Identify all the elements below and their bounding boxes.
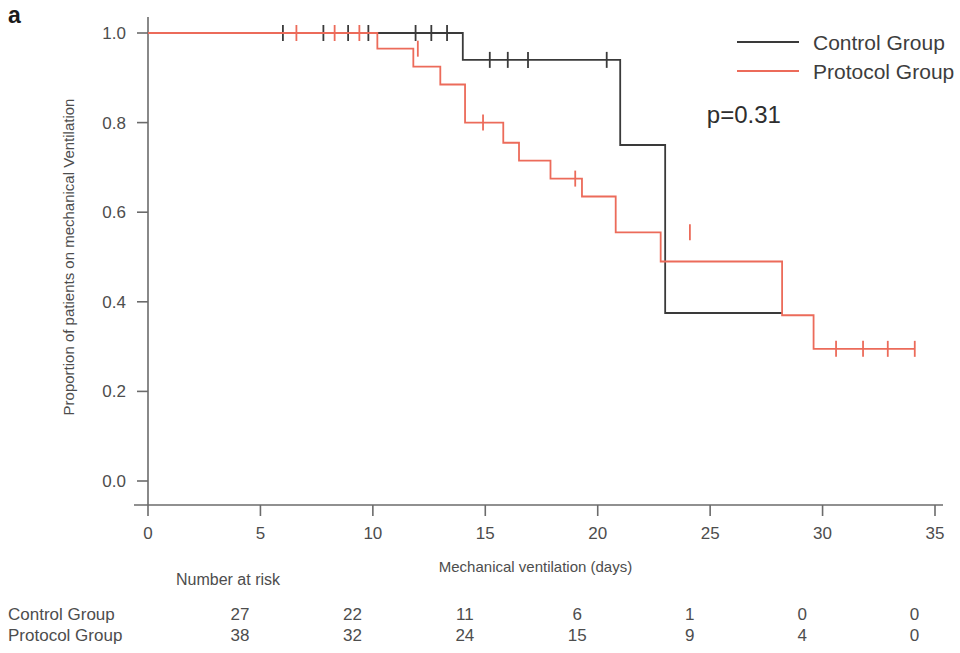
series-control	[148, 25, 782, 313]
risk-count: 24	[455, 626, 474, 645]
y-tick-label: 0.4	[102, 293, 126, 312]
x-tick-label: 20	[588, 524, 607, 543]
legend-entry: Protocol Group	[737, 60, 954, 83]
x-tick-label: 5	[256, 524, 265, 543]
x-tick-label: 35	[926, 524, 945, 543]
y-axis-title: Proportion of patients on mechanical Ven…	[60, 99, 77, 416]
risk-row-label: Control Group	[8, 605, 115, 624]
legend-label: Protocol Group	[813, 60, 954, 83]
risk-table-row: Control Group2722116100	[8, 605, 919, 624]
risk-row-label: Protocol Group	[8, 626, 122, 645]
risk-count: 0	[797, 605, 806, 624]
risk-count: 9	[685, 626, 694, 645]
risk-count: 38	[231, 626, 250, 645]
legend-label: Control Group	[813, 31, 945, 54]
y-tick-label: 0.2	[102, 382, 126, 401]
x-axis-title: Mechanical ventilation (days)	[439, 558, 632, 575]
y-tick-label: 0.6	[102, 203, 126, 222]
risk-count: 15	[568, 626, 587, 645]
risk-count: 0	[910, 626, 919, 645]
x-tick-label: 30	[813, 524, 832, 543]
legend-layer: Control GroupProtocol Group	[737, 31, 954, 83]
survival-step-line	[148, 33, 915, 349]
survival-step-line	[148, 33, 782, 313]
risk-table-title: Number at risk	[176, 571, 281, 588]
risk-count: 22	[343, 605, 362, 624]
survival-plot: 0.00.20.40.60.81.005101520253035Mechanic…	[0, 0, 960, 653]
curves-layer	[148, 25, 915, 357]
x-tick-label: 10	[363, 524, 382, 543]
axes-layer: 0.00.20.40.60.81.005101520253035Mechanic…	[60, 17, 944, 575]
x-tick-label: 15	[476, 524, 495, 543]
kaplan-meier-figure: a 0.00.20.40.60.81.005101520253035Mechan…	[0, 0, 960, 653]
risk-table-row: Protocol Group38322415940	[8, 626, 919, 645]
risk-count: 0	[910, 605, 919, 624]
x-tick-label: 25	[701, 524, 720, 543]
series-protocol	[148, 25, 915, 357]
y-tick-label: 0.8	[102, 114, 126, 133]
p-value-annotation: p=0.31	[707, 101, 781, 128]
legend-entry: Control Group	[737, 31, 945, 54]
risk-count: 27	[231, 605, 250, 624]
risk-table-layer: Number at riskControl Group2722116100Pro…	[8, 571, 919, 645]
risk-count: 6	[573, 605, 582, 624]
risk-count: 4	[797, 626, 806, 645]
risk-count: 32	[343, 626, 362, 645]
y-tick-label: 1.0	[102, 24, 126, 43]
panel-label: a	[8, 4, 21, 27]
x-tick-label: 0	[143, 524, 152, 543]
annotation-layer: p=0.31	[707, 101, 781, 128]
y-tick-label: 0.0	[102, 472, 126, 491]
risk-count: 11	[456, 605, 474, 624]
risk-count: 1	[685, 605, 694, 624]
